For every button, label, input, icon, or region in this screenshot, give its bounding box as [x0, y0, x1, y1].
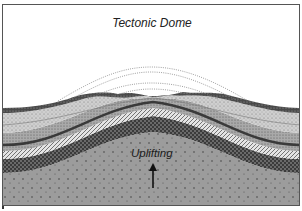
corner-mark — [2, 206, 4, 209]
dome-cross-section — [3, 5, 300, 206]
uplifting-label: Uplifting — [131, 147, 173, 159]
diagram-title: Tectonic Dome — [3, 16, 300, 30]
diagram-frame: Tectonic Dome Uplifting — [2, 4, 300, 206]
